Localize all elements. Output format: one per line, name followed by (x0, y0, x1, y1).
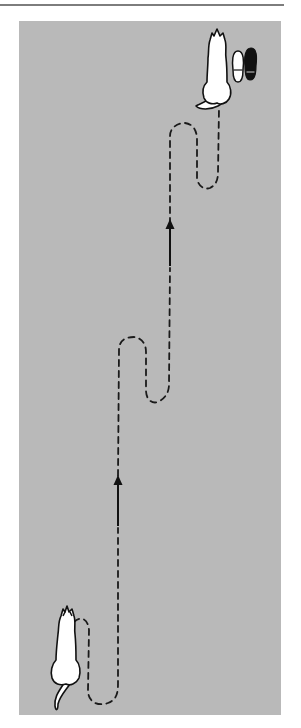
cat-end-icon (196, 29, 231, 109)
walking-path (74, 108, 219, 704)
shoe-light-icon (233, 51, 244, 82)
arrow-up-icon (114, 475, 123, 526)
arrow-up-icon (166, 219, 175, 266)
shoes-icon (233, 48, 257, 82)
figure-caption (19, 716, 281, 728)
cat-path-diagram (0, 0, 301, 728)
shoe-dark-icon (245, 48, 257, 80)
